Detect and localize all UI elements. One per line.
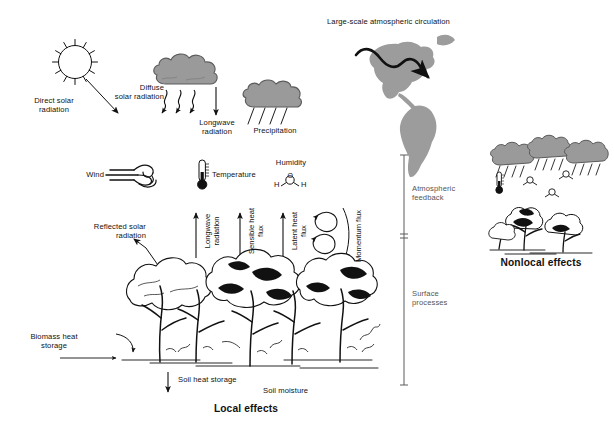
nonlocal-water-molecules xyxy=(523,171,573,197)
humidity-o-center: O xyxy=(288,171,294,180)
nonlocal-rain-clouds xyxy=(491,135,609,177)
circulation-label: Large-scale atmospheric circulation xyxy=(327,17,450,26)
flux-label-momentum: Momentum flux xyxy=(354,200,363,272)
forest-icon xyxy=(122,249,380,368)
wind-label: Wind xyxy=(56,170,104,179)
soil-heat-label: Soil heat storage xyxy=(178,375,237,384)
cloud-icon xyxy=(154,54,217,84)
precipitation-label: Precipitation xyxy=(239,126,311,135)
humidity-label: Humidity xyxy=(263,158,319,167)
diagram-canvas: Direct solar radiation Diffuse solar rad… xyxy=(0,0,614,430)
nonlocal-effects-title: Nonlocal effects xyxy=(475,258,607,267)
eddy-icon xyxy=(313,208,349,258)
direct-solar-label: Direct solar radiation xyxy=(10,96,98,115)
water-molecule-icon xyxy=(545,189,559,197)
soil-moisture-label: Soil moisture xyxy=(263,386,308,395)
reflected-solar-arrow xyxy=(134,239,160,268)
humidity-h-right: H xyxy=(301,180,307,189)
globe-americas-icon xyxy=(356,35,455,177)
sun-icon xyxy=(53,40,98,85)
water-molecule-icon xyxy=(559,171,573,179)
water-molecule-icon xyxy=(523,177,537,185)
forest-icon xyxy=(489,207,592,254)
rain-cloud-icon xyxy=(565,140,609,175)
temperature-label: Temperature xyxy=(212,170,282,179)
process-bracket xyxy=(400,155,408,385)
thermometer-icon xyxy=(496,172,504,193)
humidity-h-left: H xyxy=(274,180,280,189)
flux-label-longwave: Longwave radiation xyxy=(203,200,222,262)
diffuse-radiation-arrows xyxy=(162,90,195,113)
local-effects-title: Local effects xyxy=(185,404,307,413)
wind-icon xyxy=(106,165,156,187)
bracket-lower-label: Surface processes xyxy=(412,289,478,308)
biomass-heat-label: Biomass heat storage xyxy=(6,332,102,351)
thermometer-icon xyxy=(198,160,209,189)
reflected-solar-label: Reflected solar radiation xyxy=(50,222,146,241)
diffuse-solar-label: Diffuse solar radiation xyxy=(86,83,164,102)
bracket-upper-label: Atmospheric feedback xyxy=(412,184,478,203)
flux-label-latent: Latent heat flux xyxy=(290,200,309,262)
flux-label-sensible: Sensible heat flux xyxy=(247,200,266,262)
